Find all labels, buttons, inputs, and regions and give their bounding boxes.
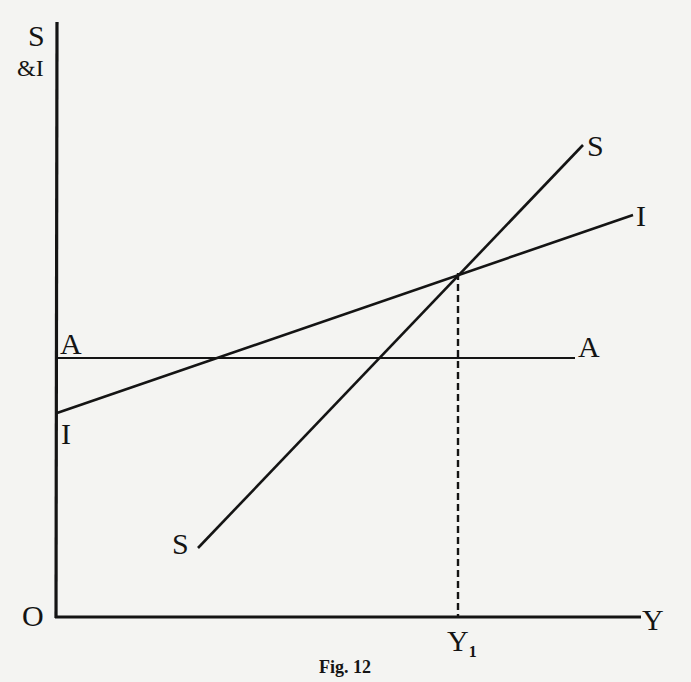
- s-line-label-bottom: S: [172, 527, 189, 560]
- s-line-label-top: S: [587, 129, 604, 162]
- savings-investment-diagram: S &I O Y Y1 A A I I S S Fig. 12: [0, 0, 691, 682]
- equilibrium-income-subscript: 1: [469, 643, 477, 660]
- figure-caption: Fig. 12: [319, 657, 371, 677]
- a-line-label-left: A: [60, 327, 82, 360]
- y-axis-label-and-i: &I: [17, 55, 44, 81]
- i-line-label-left: I: [61, 417, 71, 450]
- equilibrium-income-label: Y1: [447, 624, 477, 660]
- investment-line-i: [57, 215, 633, 413]
- savings-line-s: [198, 145, 583, 548]
- a-line-label-right: A: [578, 330, 600, 363]
- origin-label: O: [22, 599, 44, 632]
- y-axis-label-s: S: [28, 19, 45, 52]
- y-axis: [56, 22, 57, 618]
- x-axis-label-y: Y: [642, 603, 664, 636]
- i-line-label-right: I: [636, 199, 646, 232]
